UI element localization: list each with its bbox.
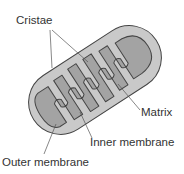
mitochondrion-body (16, 13, 173, 146)
leader-cristae-1 (50, 30, 52, 68)
leader-cristae-2 (52, 30, 88, 62)
label-inner-membrane: Inner membrane (90, 136, 174, 148)
outer-membrane-shape (16, 13, 173, 146)
label-matrix: Matrix (141, 106, 172, 118)
label-outer-membrane: Outer membrane (2, 156, 89, 168)
label-cristae: Cristae (16, 14, 52, 26)
